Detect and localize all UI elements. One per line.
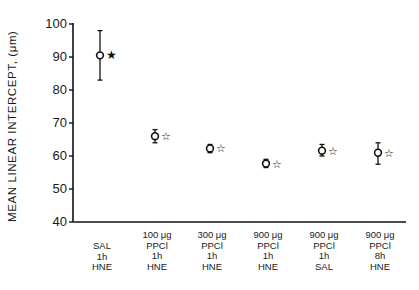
- y-tick-90: 90: [37, 49, 67, 64]
- filled-star-icon: ★: [106, 48, 117, 62]
- y-tick-60: 60: [37, 148, 67, 163]
- data-point-marker: [97, 52, 104, 59]
- data-point-marker: [375, 149, 382, 156]
- open-star-icon: ☆: [272, 158, 282, 171]
- open-star-icon: ☆: [384, 147, 394, 160]
- data-point-marker: [152, 133, 159, 140]
- y-tick-40: 40: [37, 214, 67, 229]
- data-point-marker: [207, 145, 214, 152]
- data-point-marker: [263, 160, 270, 167]
- open-star-icon: ☆: [328, 145, 338, 158]
- y-tick-70: 70: [37, 115, 67, 130]
- open-star-icon: ☆: [216, 142, 226, 155]
- data-point-marker: [319, 147, 326, 154]
- x-category-100ug-ppcl-1h-hne: 100 μg PPCl 1h HNE: [129, 230, 185, 272]
- x-category-300ug-ppcl-1h-hne: 300 μg PPCl 1h HNE: [184, 230, 240, 272]
- x-category-900ug-ppcl-1h-hne: 900 μg PPCl 1h HNE: [240, 230, 296, 272]
- y-axis-label: MEAN LINEAR INTERCEPT, (μm): [6, 30, 18, 222]
- y-tick-80: 80: [37, 82, 67, 97]
- x-category-900ug-ppcl-8h-hne: 900 μg PPCl 8h HNE: [352, 230, 408, 272]
- y-tick-100: 100: [37, 16, 67, 31]
- open-star-icon: ☆: [161, 130, 171, 143]
- x-category-sal-1h-hne: SAL 1h HNE: [74, 241, 130, 273]
- y-tick-50: 50: [37, 181, 67, 196]
- x-category-900ug-ppcl-1h-sal: 900 μg PPCl 1h SAL: [296, 230, 352, 272]
